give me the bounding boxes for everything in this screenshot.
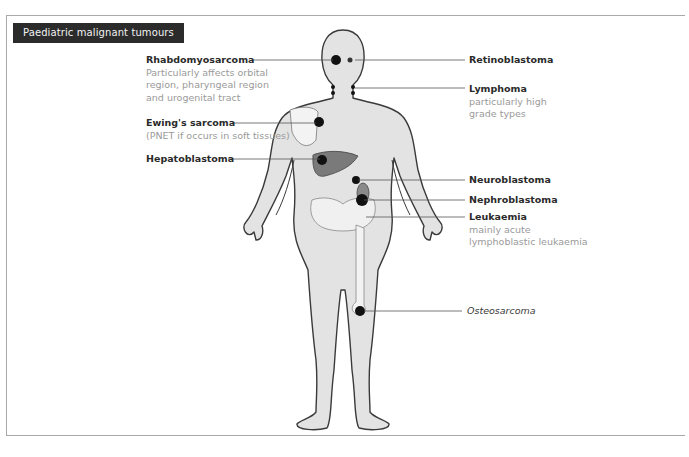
tumour-liver [317,155,327,165]
label-retinoblastoma: Retinoblastoma [469,54,553,67]
label-leukaemia: Leukaemia mainly acute lymphoblastic leu… [469,211,588,249]
tumour-ewing [314,117,324,127]
label-rhabdomyosarcoma: Rhabdomyosarcoma Particularly affects or… [146,54,269,104]
label-neuroblastoma: Neuroblastoma [469,174,551,187]
tumour-lymph-node [331,85,335,89]
label-hepatoblastoma: Hepatoblastoma [146,153,234,166]
label-ewings-sarcoma: Ewing's sarcoma (PNET if occurs in soft … [146,117,290,142]
tumour-osteosarcoma [355,306,365,316]
label-osteosarcoma: Osteosarcoma [467,305,536,318]
label-lymphoma: Lymphoma particularly high grade types [469,83,547,121]
label-nephroblastoma: Nephroblastoma [469,194,558,207]
